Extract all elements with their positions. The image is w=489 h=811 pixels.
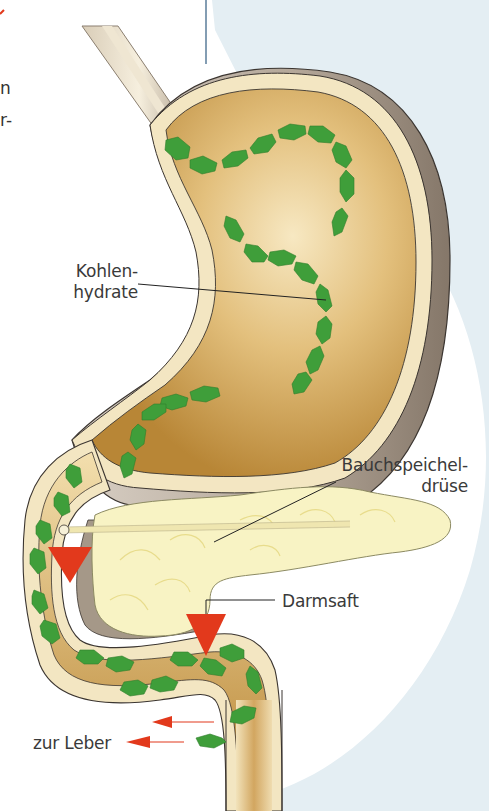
duct-opening <box>59 525 69 535</box>
label-pancreas-line1: Bauchspeichel- <box>330 455 468 476</box>
label-carbohydrates-line2: hydrate <box>58 282 138 303</box>
digestion-diagram <box>0 0 489 811</box>
label-pancreas-line2: drüse <box>330 476 468 497</box>
label-pancreas: Bauchspeichel- drüse <box>330 455 468 497</box>
cut-off-text-line2: r- <box>0 110 12 131</box>
pancreas <box>92 487 451 637</box>
label-to-liver: zur Leber <box>33 733 111 754</box>
red-accent-mark <box>0 10 4 14</box>
label-intestinal-juice: Darmsaft <box>282 591 359 612</box>
label-carbohydrates: Kohlen- hydrate <box>58 261 138 303</box>
label-carbohydrates-line1: Kohlen- <box>58 261 138 282</box>
cut-off-text-line1: n <box>0 78 11 99</box>
leader-line-intestinal-juice <box>206 600 275 614</box>
